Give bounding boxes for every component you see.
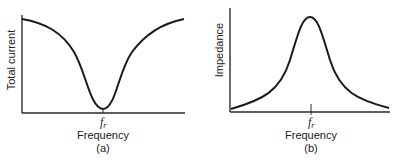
panel-b-x-label: Frequency (285, 129, 337, 141)
panel-b-impedance-curve (231, 17, 389, 109)
panel-a-x-label: Frequency (77, 129, 129, 141)
figure: fr Frequency (a) Total current fr Freque… (0, 0, 396, 160)
panel-a-total-current: fr Frequency (a) Total current (5, 15, 185, 154)
panel-b-y-label: Impedance (213, 23, 225, 77)
panel-b-fr-label: fr (308, 115, 315, 130)
panel-a-caption: (a) (96, 142, 109, 154)
panel-a-y-label: Total current (5, 30, 17, 91)
panel-b-caption: (b) (304, 142, 317, 154)
panel-a-current-curve (22, 19, 184, 109)
panel-b-impedance: fr Frequency (b) Impedance (213, 8, 390, 154)
panel-a-fr-label: fr (100, 115, 107, 130)
